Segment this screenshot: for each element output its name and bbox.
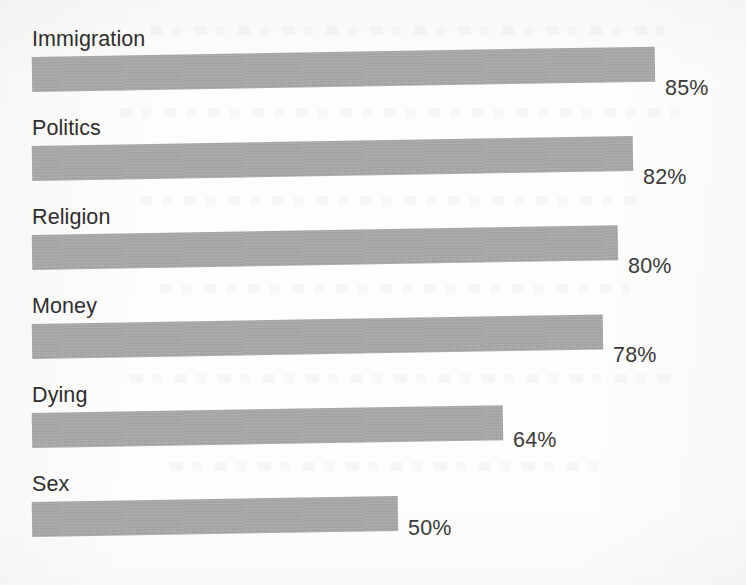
value-label-money: 78% <box>613 345 657 367</box>
value-label-immigration: 85% <box>665 78 709 100</box>
chart-page: Immigration 85% Politics 82% Religion 80… <box>0 0 746 585</box>
bar-sex <box>32 496 399 537</box>
bar-immigration <box>32 47 655 92</box>
category-label-dying: Dying <box>32 385 87 407</box>
category-label-sex: Sex <box>32 474 69 496</box>
bar-money <box>32 315 604 359</box>
value-label-dying: 64% <box>513 430 557 452</box>
category-label-money: Money <box>32 296 97 318</box>
value-label-sex: 50% <box>408 518 452 540</box>
category-label-immigration: Immigration <box>32 29 145 51</box>
value-label-politics: 82% <box>643 167 687 189</box>
bar-religion <box>32 225 618 270</box>
category-label-politics: Politics <box>32 118 101 140</box>
bar-politics <box>32 136 633 181</box>
value-label-religion: 80% <box>628 256 672 278</box>
bar-dying <box>32 405 504 448</box>
category-label-religion: Religion <box>32 207 111 229</box>
horizontal-bar-chart: Immigration 85% Politics 82% Religion 80… <box>0 0 746 585</box>
